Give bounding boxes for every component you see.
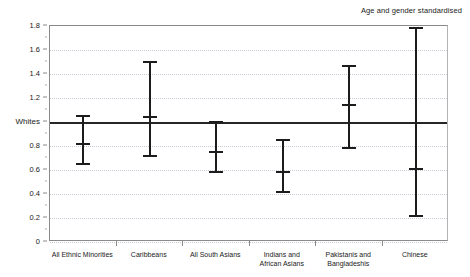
gridline <box>50 218 447 219</box>
y-axis-minor-tick <box>45 37 47 38</box>
y-axis-tick-mark <box>43 193 47 194</box>
data-point-marker <box>342 104 356 106</box>
error-bar-line <box>348 66 350 149</box>
error-bar-upper-cap <box>409 27 423 29</box>
x-axis-category-label: Indians andAfrican Asians <box>260 250 304 268</box>
x-axis-tick-mark <box>315 241 316 246</box>
error-bar-lower-cap <box>276 191 290 193</box>
y-axis-tick-label: 1.6 <box>30 45 40 54</box>
y-axis-minor-tick <box>45 85 47 86</box>
y-axis-minor-tick <box>45 133 47 134</box>
x-axis: All Ethnic MinoritiesCaribbeansAll South… <box>49 241 448 277</box>
error-bar-lower-cap <box>143 155 157 157</box>
error-bar-line <box>82 116 84 164</box>
y-axis-tick-label: 1.8 <box>30 21 40 30</box>
data-point-marker <box>209 151 223 153</box>
error-bar-upper-cap <box>342 65 356 67</box>
y-axis-tick-mark <box>43 169 47 170</box>
error-bar-line <box>415 28 417 215</box>
y-axis-tick-mark <box>43 97 47 98</box>
gridline <box>50 74 447 75</box>
x-axis-category-label: All Ethnic Minorities <box>52 250 113 259</box>
gridline <box>50 146 447 147</box>
x-axis-tick-mark <box>249 241 250 246</box>
gridline <box>50 50 447 51</box>
chart-annotation: Age and gender standardised <box>361 6 462 15</box>
plot-area <box>49 25 448 241</box>
y-axis-tick-label: 1.2 <box>30 93 40 102</box>
x-axis-tick-mark <box>116 241 117 246</box>
x-axis-category-label: All South Asians <box>190 250 241 259</box>
error-bar-upper-cap <box>209 121 223 123</box>
y-axis-tick-mark <box>43 241 47 242</box>
y-axis-minor-tick <box>45 109 47 110</box>
error-bar-line <box>149 62 151 156</box>
y-axis-minor-tick <box>45 61 47 62</box>
y-axis-minor-tick <box>45 181 47 182</box>
y-axis-minor-tick <box>45 157 47 158</box>
chart-root: Age and gender standardised 00.20.40.60.… <box>0 0 470 277</box>
y-axis-label-whites: Whites <box>16 117 40 126</box>
x-axis-category-label: Pakistanis andBangladeshis <box>325 250 371 268</box>
data-point-marker <box>143 116 157 118</box>
y-axis-tick-label: 0 <box>36 237 40 246</box>
y-axis-tick-mark <box>43 25 47 26</box>
error-bar-lower-cap <box>76 163 90 165</box>
error-bar-upper-cap <box>76 115 90 117</box>
error-bar-lower-cap <box>209 171 223 173</box>
error-bar-upper-cap <box>143 61 157 63</box>
y-axis-tick-label: 0.6 <box>30 165 40 174</box>
y-axis-tick-label: 0.4 <box>30 189 40 198</box>
y-axis-tick-mark <box>43 73 47 74</box>
y-axis-tick-label: 0.2 <box>30 213 40 222</box>
gridline <box>50 98 447 99</box>
error-bar-line <box>282 140 284 192</box>
y-axis-minor-tick <box>45 205 47 206</box>
x-axis-tick-mark <box>182 241 183 246</box>
x-axis-category-label: Chinese <box>402 250 428 259</box>
y-axis-tick-mark <box>43 49 47 50</box>
y-axis-tick-label: 1.4 <box>30 69 40 78</box>
y-axis: 00.20.40.60.8Whites1.21.41.61.8 <box>0 25 47 241</box>
gridline <box>50 194 447 195</box>
y-axis-tick-mark <box>43 217 47 218</box>
x-axis-category-label: Caribbeans <box>131 250 167 259</box>
data-point-marker <box>276 171 290 173</box>
y-axis-minor-tick <box>45 229 47 230</box>
data-point-marker <box>76 143 90 145</box>
y-axis-tick-label: 0.8 <box>30 141 40 150</box>
error-bar-upper-cap <box>276 139 290 141</box>
gridline <box>50 170 447 171</box>
data-point-marker <box>409 168 423 170</box>
whites-reference-line <box>50 122 447 124</box>
error-bar-lower-cap <box>342 147 356 149</box>
y-axis-tick-mark <box>43 121 47 122</box>
error-bar-line <box>215 122 217 172</box>
y-axis-tick-mark <box>43 145 47 146</box>
error-bar-lower-cap <box>409 215 423 217</box>
x-axis-tick-mark <box>382 241 383 246</box>
